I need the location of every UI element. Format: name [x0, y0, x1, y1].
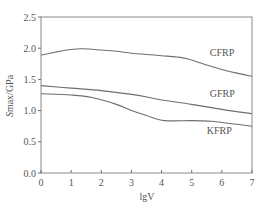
x-tick-label: 0: [39, 177, 44, 188]
x-tick-label: 1: [69, 177, 74, 188]
y-tick-label: 0.5: [24, 136, 37, 147]
y-tick-label: 2.0: [24, 43, 37, 54]
series-label-cfrp: CFRP: [210, 47, 235, 58]
line-chart: 0.00.51.01.52.02.5 01234567 CFRPGFRPKFRP…: [0, 0, 263, 213]
series-label-kfrp: KFRP: [207, 125, 232, 136]
y-tick-label: 1.5: [24, 74, 37, 85]
y-axis-label: Smax/GPa: [4, 74, 15, 117]
x-tick-label: 5: [189, 177, 194, 188]
x-tick-label: 4: [159, 177, 164, 188]
x-tick-label: 6: [219, 177, 224, 188]
y-axis: 0.00.51.01.52.02.5: [24, 12, 42, 179]
x-tick-label: 3: [129, 177, 134, 188]
x-tick-label: 7: [250, 177, 255, 188]
x-tick-label: 2: [99, 177, 104, 188]
x-axis-label: lgV: [140, 191, 156, 202]
series-label-gfrp: GFRP: [210, 88, 235, 99]
y-tick-label: 1.0: [24, 105, 37, 116]
y-tick-label: 2.5: [24, 12, 37, 23]
y-tick-label: 0.0: [24, 168, 37, 179]
